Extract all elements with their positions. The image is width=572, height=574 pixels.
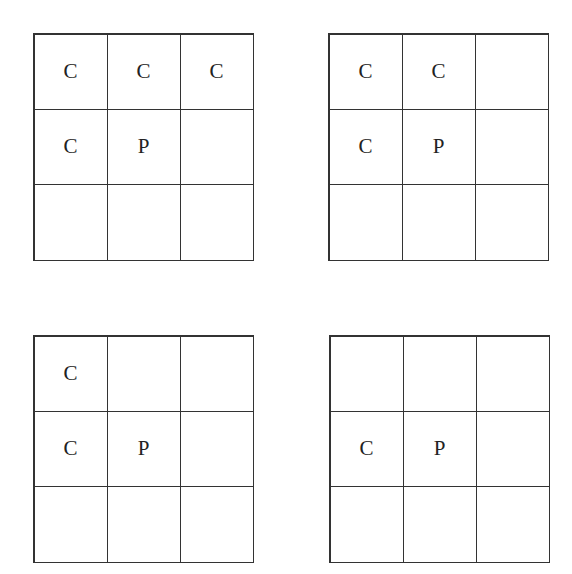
grid-cell (475, 184, 549, 260)
grid-cell (330, 336, 404, 412)
grid-cell (34, 486, 108, 562)
grid-cell (180, 184, 254, 260)
grid-cell (107, 184, 181, 260)
grid-cell: C (180, 34, 254, 110)
grid-cell: P (402, 109, 476, 185)
grid-cell (476, 336, 550, 412)
grid-cell: C (329, 109, 403, 185)
grid-cell: C (329, 34, 403, 110)
grid-cell (403, 336, 477, 412)
grid-top-left: C C C C P (33, 33, 254, 261)
grid-cell: C (34, 336, 108, 412)
grid-cell (107, 336, 181, 412)
grid-cell: P (403, 411, 477, 487)
grid-cell (476, 486, 550, 562)
grid-cell: C (402, 34, 476, 110)
grid-cell (34, 184, 108, 260)
grid-cell: C (34, 109, 108, 185)
grid-cell (330, 486, 404, 562)
grid-cell (402, 184, 476, 260)
grid-cell (329, 184, 403, 260)
grid-cell (180, 411, 254, 487)
grid-cell (475, 34, 549, 110)
grid-bottom-left: C C P (33, 335, 254, 563)
grid-cell: C (107, 34, 181, 110)
grid-cell (475, 109, 549, 185)
grid-cell (180, 336, 254, 412)
grid-cell: C (34, 411, 108, 487)
grid-cell (180, 109, 254, 185)
grid-top-right: C C C P (328, 33, 549, 261)
grid-cell (107, 486, 181, 562)
grid-bottom-right: C P (329, 335, 550, 563)
grid-cell (180, 486, 254, 562)
grid-cell: C (330, 411, 404, 487)
grid-cell: P (107, 411, 181, 487)
grid-cell: P (107, 109, 181, 185)
grid-cell (403, 486, 477, 562)
grid-cell (476, 411, 550, 487)
grid-cell: C (34, 34, 108, 110)
